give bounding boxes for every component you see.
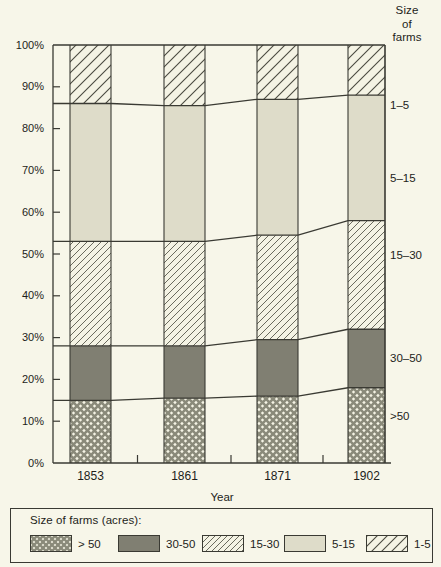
y-tick-label-40: 40% xyxy=(2,290,44,301)
series-label-1-5: 1–5 xyxy=(390,99,441,111)
y-tick-label-10: 10% xyxy=(2,416,44,427)
band-1-5-1871 xyxy=(257,45,298,99)
band-5-15-1902 xyxy=(348,95,385,220)
legend-label: 15-30 xyxy=(250,538,279,550)
y-tick-label-90: 90% xyxy=(2,81,44,92)
band-1-5-1902 xyxy=(348,45,385,95)
band-gt-50-1902 xyxy=(348,388,385,463)
band-30-50-1861 xyxy=(164,346,205,398)
y-tick-label-70: 70% xyxy=(2,165,44,176)
y-tick-label-20: 20% xyxy=(2,374,44,385)
legend-title: Size of farms (acres): xyxy=(30,514,141,526)
band-1-5-1853 xyxy=(70,45,111,104)
band-5-15-1853 xyxy=(70,104,111,242)
series-label-5-15: 5–15 xyxy=(390,172,441,184)
legend-items: > 5030-5015-305-151-5 xyxy=(30,534,430,558)
chart-page: Size of farms xyxy=(0,0,441,567)
x-axis-title: Year xyxy=(172,491,272,503)
legend-label: > 50 xyxy=(78,538,101,550)
band-15-30-1861 xyxy=(164,241,205,346)
legend-label: 1-5 xyxy=(414,538,431,550)
series-label-15-30: 15–30 xyxy=(390,249,441,261)
band-gt-50-1853 xyxy=(70,400,111,463)
legend-swatch-crosshatch xyxy=(30,535,72,552)
band-gt-50-1861 xyxy=(164,398,205,463)
y-tick-label-60: 60% xyxy=(2,207,44,218)
band-30-50-1871 xyxy=(257,340,298,396)
legend-label: 5-15 xyxy=(332,538,355,550)
y-tick-label-30: 30% xyxy=(2,332,44,343)
chart-legend: Size of farms (acres): > 5030-5015-305-1… xyxy=(10,508,433,563)
legend-swatch-flat-light xyxy=(284,535,326,552)
x-tick-label-1861: 1861 xyxy=(155,470,215,482)
x-tick-label-1902: 1902 xyxy=(337,470,397,482)
legend-label: 30-50 xyxy=(166,538,195,550)
band-30-50-1853 xyxy=(70,346,111,400)
band-5-15-1871 xyxy=(257,99,298,235)
band-5-15-1861 xyxy=(164,106,205,242)
band-30-50-1902 xyxy=(348,329,385,388)
stacked-area-chart xyxy=(0,0,441,500)
x-tick-label-1871: 1871 xyxy=(248,470,308,482)
band-15-30-1853 xyxy=(70,241,111,346)
band-15-30-1871 xyxy=(257,235,298,340)
legend-swatch-diagonal-wide xyxy=(366,535,408,552)
band-gt-50-1871 xyxy=(257,396,298,463)
y-tick-label-50: 50% xyxy=(2,249,44,260)
y-tick-label-80: 80% xyxy=(2,123,44,134)
legend-swatch-diagonal-thin xyxy=(202,535,244,552)
series-label-gt-50: >50 xyxy=(390,410,441,422)
y-tick-label-100: 100% xyxy=(2,40,44,51)
x-tick-label-1853: 1853 xyxy=(61,470,121,482)
band-15-30-1902 xyxy=(348,221,385,330)
legend-swatch-solid xyxy=(118,535,160,552)
y-tick-label-0: 0% xyxy=(2,458,44,469)
series-label-30-50: 30–50 xyxy=(390,352,441,364)
band-1-5-1861 xyxy=(164,45,205,106)
